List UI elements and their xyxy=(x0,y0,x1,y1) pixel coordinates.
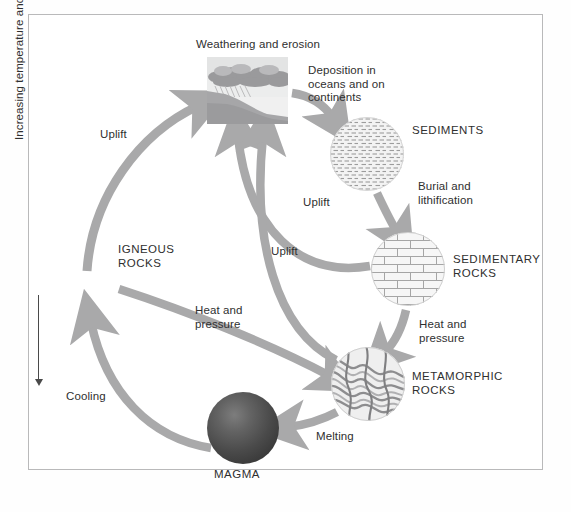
label-melting: Melting xyxy=(316,430,354,444)
label-deposition: Deposition in oceans and on continents xyxy=(308,64,385,105)
label-burial-lithification: Burial and lithification xyxy=(418,180,473,207)
arrow-cooling xyxy=(91,322,211,448)
sediments-icon xyxy=(330,117,404,191)
label-weathering-and-erosion: Weathering and erosion xyxy=(196,38,320,52)
sedimentary-rocks-icon xyxy=(367,228,451,312)
rock-cycle-diagram: Increasing temperature and pressure xyxy=(0,0,571,512)
label-uplift-upper: Uplift xyxy=(303,196,330,210)
arrow-melting xyxy=(288,412,337,427)
metamorphic-rocks-icon xyxy=(327,343,411,427)
label-igneous-rocks: IGNEOUS ROCKS xyxy=(118,243,175,270)
arrow-burial xyxy=(377,193,397,232)
label-heat-pressure-center: Heat and pressure xyxy=(195,304,242,331)
label-sediments: SEDIMENTS xyxy=(412,124,484,138)
label-sedimentary-rocks: SEDIMENTARY ROCKS xyxy=(453,253,541,280)
label-uplift-mid: Uplift xyxy=(271,245,298,259)
label-metamorphic-rocks: METAMORPHIC ROCKS xyxy=(412,370,503,397)
label-magma: MAGMA xyxy=(214,468,260,482)
label-heat-pressure-right: Heat and pressure xyxy=(419,318,466,345)
weathering-scene-icon xyxy=(207,57,290,124)
label-cooling: Cooling xyxy=(66,390,106,404)
label-uplift-left: Uplift xyxy=(100,128,127,142)
magma-icon xyxy=(207,392,279,464)
arrow-heat-pressure-right xyxy=(385,310,406,352)
